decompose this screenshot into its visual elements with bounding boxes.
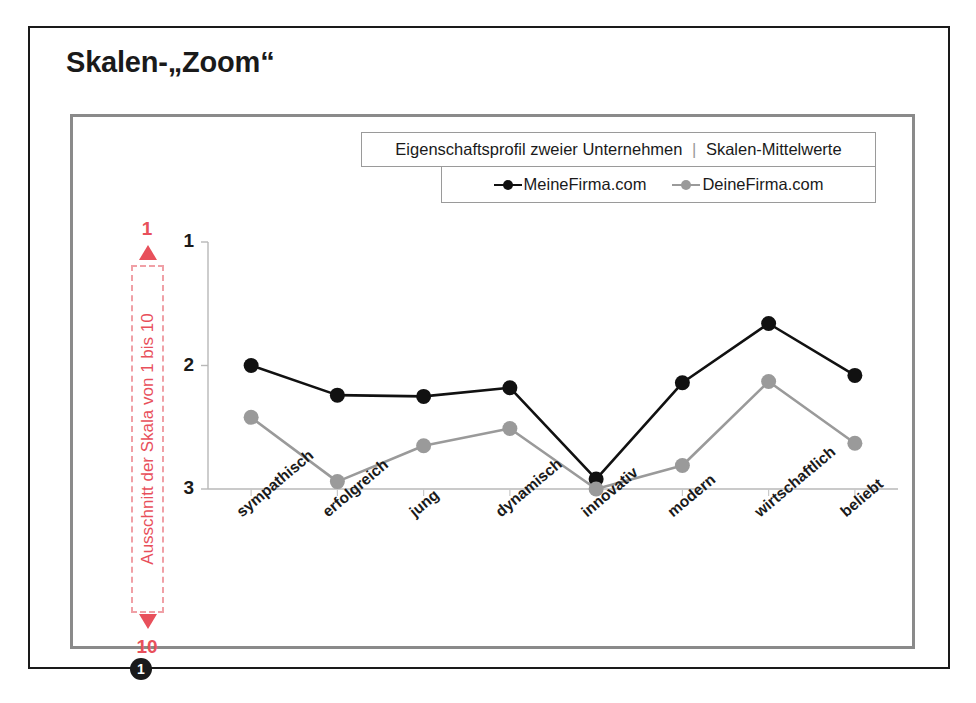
x-axis-category-label: dynamisch [492, 455, 566, 521]
scale-top-value: 1 [118, 218, 176, 240]
line-marker-icon [494, 178, 522, 192]
chart-title-left: Eigenschaftsprofil zweier Unternehmen [395, 140, 682, 158]
chart-legend: MeineFirma.com DeineFirma.com [441, 167, 876, 203]
step-marker-badge: 1 [130, 658, 152, 680]
scale-bottom-value: 10 [118, 636, 176, 658]
scale-zoom-annotation: 1 Ausschnitt der Skala von 1 bis 10 10 [118, 218, 176, 678]
chart-title-box: Eigenschaftsprofil zweier Unternehmen | … [361, 132, 876, 167]
x-axis-category-label: sympathisch [233, 446, 317, 521]
arrow-down-icon [139, 614, 157, 629]
legend-label-deinefirma: DeineFirma.com [702, 175, 823, 194]
x-axis-category-label: jung [406, 486, 443, 521]
chart-title-right: Skalen-Mittelwerte [706, 140, 842, 158]
x-axis-category-label: erfolgreich [319, 456, 392, 521]
line-marker-icon [672, 178, 700, 192]
x-axis-category-label: innovativ [578, 463, 642, 521]
x-axis-category-label: wirtschaftlich [751, 443, 839, 521]
slide-frame: Skalen-„Zoom“ Eigenschaftsprofil zweier … [28, 26, 950, 669]
chart-panel: Eigenschaftsprofil zweier Unternehmen | … [70, 114, 915, 649]
legend-item-deinefirma[interactable]: DeineFirma.com [672, 175, 823, 194]
page-title: Skalen-„Zoom“ [66, 46, 275, 79]
arrow-up-icon [139, 245, 157, 260]
x-axis-category-label: modern [664, 470, 719, 520]
legend-item-meinefirma[interactable]: MeineFirma.com [494, 175, 647, 194]
chart-title-text: Eigenschaftsprofil zweier Unternehmen | … [395, 140, 841, 159]
scale-annotation-text: Ausschnitt der Skala von 1 bis 10 [131, 265, 164, 613]
x-axis-category-label: beliebt [837, 475, 887, 521]
chart-title-separator: | [687, 140, 701, 158]
legend-label-meinefirma: MeineFirma.com [524, 175, 647, 194]
